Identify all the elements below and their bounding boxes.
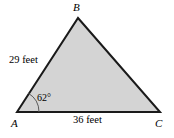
triangle-figure: B A C 29 feet 36 feet 62° [0,0,174,138]
vertex-label-c: C [155,118,162,129]
side-label-ac: 36 feet [73,115,102,126]
vertex-label-a: A [11,118,18,129]
side-label-ab: 29 feet [9,55,38,66]
angle-label-a: 62° [37,93,51,103]
vertex-label-b: B [73,2,80,13]
